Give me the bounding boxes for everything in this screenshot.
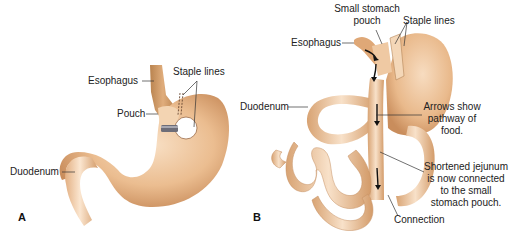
label-connection: Connection — [394, 214, 445, 225]
label-staple-lines: Staple lines — [173, 66, 225, 77]
label-duodenum: Duodenum — [10, 166, 59, 177]
label-small-stomach-pouch-line1: Small stomach — [328, 3, 406, 14]
label-small-stomach-pouch-line2: pouch — [328, 15, 406, 26]
stomach-illustration-a — [0, 0, 258, 238]
label-arrows-line2: pathway of — [418, 113, 486, 124]
label-arrows-line1: Arrows show — [418, 101, 486, 112]
panel-a: Esophagus Staple lines Pouch Duodenum A — [0, 0, 258, 238]
label-esophagus: Esophagus — [291, 37, 341, 48]
label-jejunum-line3: to the small — [418, 185, 514, 196]
panel-b: Small stomach pouch Staple lines Esophag… — [258, 0, 516, 238]
label-jejunum-line1: Shortened jejunum — [418, 161, 514, 172]
label-arrows-line3: food. — [418, 125, 486, 136]
label-duodenum: Duodenum — [240, 101, 289, 112]
label-esophagus: Esophagus — [88, 75, 138, 86]
panel-letter-b: B — [253, 211, 261, 223]
label-staple-lines: Staple lines — [403, 15, 455, 26]
label-jejunum-line2: is now connected — [418, 173, 514, 184]
label-jejunum-line4: stomach pouch. — [418, 197, 514, 208]
label-pouch: Pouch — [117, 108, 145, 119]
panel-letter-a: A — [18, 211, 26, 223]
